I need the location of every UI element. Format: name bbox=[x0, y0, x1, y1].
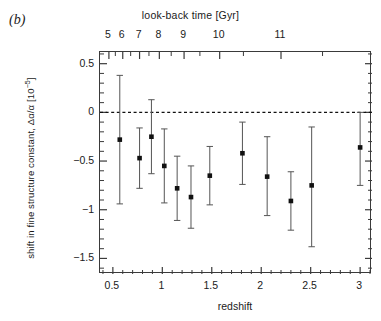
bottom-axis-title: redshift bbox=[99, 300, 371, 312]
data-point-0 bbox=[117, 75, 123, 204]
top-axis-tick-label: 11 bbox=[275, 28, 286, 40]
data-marker bbox=[358, 145, 363, 150]
y-axis-title: shift in fine structure constant, Δα/α [… bbox=[24, 63, 36, 273]
data-point-4 bbox=[174, 156, 180, 220]
data-marker bbox=[289, 199, 294, 204]
plot-area bbox=[99, 51, 371, 273]
y-axis-tick-label: 0 bbox=[58, 105, 94, 117]
data-point-5 bbox=[188, 166, 194, 228]
y-axis-tick-label: 0.5 bbox=[58, 57, 94, 69]
data-marker bbox=[162, 164, 167, 169]
x-axis-tick-label: 2 bbox=[257, 279, 263, 291]
data-point-11 bbox=[357, 112, 363, 185]
data-marker bbox=[149, 134, 154, 139]
data-point-8 bbox=[264, 137, 270, 216]
data-marker bbox=[240, 151, 245, 156]
data-point-10 bbox=[308, 127, 314, 247]
top-axis-tick-label: 5 bbox=[105, 28, 111, 40]
top-axis-title: look-back time [Gyr] bbox=[0, 9, 381, 21]
data-marker bbox=[117, 137, 122, 142]
data-marker bbox=[309, 183, 314, 188]
data-point-7 bbox=[239, 122, 245, 184]
data-point-9 bbox=[288, 172, 294, 230]
data-marker bbox=[175, 186, 180, 191]
top-axis-tick-label: 7 bbox=[136, 28, 142, 40]
top-axis-tick-label: 6 bbox=[119, 28, 125, 40]
figure-root: (b) look-back time [Gyr] redshift shift … bbox=[0, 0, 381, 321]
x-axis-tick-label: 3 bbox=[356, 279, 362, 291]
y-axis-tick-label: −1 bbox=[58, 203, 94, 215]
data-marker bbox=[265, 174, 270, 179]
data-point-3 bbox=[161, 129, 167, 203]
plot-canvas bbox=[100, 52, 372, 274]
top-axis-tick-label: 10 bbox=[213, 28, 225, 40]
data-point-2 bbox=[148, 100, 154, 174]
top-axis-tick-label: 8 bbox=[155, 28, 161, 40]
x-axis-tick-label: 0.5 bbox=[105, 279, 120, 291]
data-point-6 bbox=[207, 146, 213, 204]
x-axis-tick-label: 1.5 bbox=[203, 279, 218, 291]
x-axis-tick-label: 2.5 bbox=[302, 279, 317, 291]
data-marker bbox=[137, 156, 142, 161]
top-axis-tick-label: 9 bbox=[180, 28, 186, 40]
y-axis-title-text: shift in fine structure constant, Δα/α [… bbox=[25, 77, 36, 258]
data-marker bbox=[207, 173, 212, 178]
y-axis-tick-label: −0.5 bbox=[58, 154, 94, 166]
data-marker bbox=[189, 195, 194, 200]
data-point-1 bbox=[136, 128, 142, 188]
x-axis-tick-label: 1 bbox=[158, 279, 164, 291]
y-axis-tick-label: −1.5 bbox=[58, 251, 94, 263]
